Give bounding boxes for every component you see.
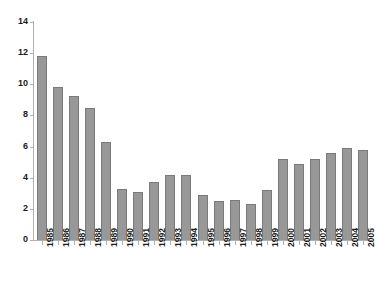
y-axis-tick-label: 12 bbox=[2, 48, 28, 57]
x-axis-tick bbox=[138, 241, 139, 245]
x-axis-tick-label: 1992 bbox=[158, 228, 167, 247]
bar bbox=[358, 150, 368, 240]
x-axis-tick-label: 1993 bbox=[174, 228, 183, 247]
x-axis-tick bbox=[299, 241, 300, 245]
x-axis-tick bbox=[219, 241, 220, 245]
x-axis-tick-label: 1990 bbox=[126, 228, 135, 247]
x-axis-tick-label: 1991 bbox=[142, 228, 151, 247]
bar bbox=[53, 87, 63, 240]
x-axis-tick-label: 1999 bbox=[271, 228, 280, 247]
y-axis-tick-label: 2 bbox=[2, 204, 28, 213]
x-axis-tick bbox=[74, 241, 75, 245]
bar bbox=[326, 153, 336, 240]
x-axis-tick bbox=[122, 241, 123, 245]
x-axis-tick bbox=[186, 241, 187, 245]
x-axis-tick bbox=[170, 241, 171, 245]
x-axis-tick-label: 1985 bbox=[46, 228, 55, 247]
y-axis-tick-label: 4 bbox=[2, 173, 28, 182]
x-axis-tick bbox=[42, 241, 43, 245]
x-axis-tick bbox=[106, 241, 107, 245]
x-axis-tick-label: 2004 bbox=[351, 228, 360, 247]
x-axis-tick bbox=[90, 241, 91, 245]
x-axis-tick bbox=[363, 241, 364, 245]
x-axis-tick-label: 2000 bbox=[287, 228, 296, 247]
x-axis-tick-label: 1988 bbox=[94, 228, 103, 247]
bar bbox=[37, 56, 47, 240]
x-axis-tick-label: 1989 bbox=[110, 228, 119, 247]
y-axis-labels: 02468101214 bbox=[0, 0, 28, 281]
x-axis-tick-label: 2001 bbox=[303, 228, 312, 247]
bar bbox=[342, 148, 352, 240]
x-axis-tick-label: 1994 bbox=[190, 228, 199, 247]
bar bbox=[69, 96, 79, 240]
y-axis-tick-label: 10 bbox=[2, 79, 28, 88]
x-axis-tick bbox=[267, 241, 268, 245]
x-axis-tick bbox=[251, 241, 252, 245]
x-axis-tick-label: 1996 bbox=[223, 228, 232, 247]
x-axis-tick-label: 1997 bbox=[239, 228, 248, 247]
x-axis-tick bbox=[283, 241, 284, 245]
bar-chart: 02468101214 1985198619871988198919901991… bbox=[0, 0, 377, 281]
x-axis-tick-label: 1987 bbox=[78, 228, 87, 247]
x-axis-tick-label: 2003 bbox=[335, 228, 344, 247]
bar bbox=[85, 108, 95, 240]
x-axis-tick bbox=[154, 241, 155, 245]
x-axis-tick-label: 1986 bbox=[62, 228, 71, 247]
bar bbox=[101, 142, 111, 240]
y-axis-tick-label: 8 bbox=[2, 110, 28, 119]
x-axis-tick bbox=[203, 241, 204, 245]
x-axis-tick-label: 2002 bbox=[319, 228, 328, 247]
x-axis-tick-label: 1995 bbox=[207, 228, 216, 247]
x-axis-tick bbox=[347, 241, 348, 245]
x-axis-tick-label: 2005 bbox=[367, 228, 376, 247]
y-axis-tick-label: 6 bbox=[2, 142, 28, 151]
y-axis-tick-label: 14 bbox=[2, 17, 28, 26]
x-axis-tick bbox=[331, 241, 332, 245]
x-axis-tick bbox=[235, 241, 236, 245]
chart-title bbox=[60, 0, 320, 5]
x-axis-tick bbox=[315, 241, 316, 245]
y-axis-tick-label: 0 bbox=[2, 235, 28, 244]
x-axis-tick-label: 1998 bbox=[255, 228, 264, 247]
plot-area bbox=[34, 22, 371, 240]
x-axis-tick bbox=[58, 241, 59, 245]
